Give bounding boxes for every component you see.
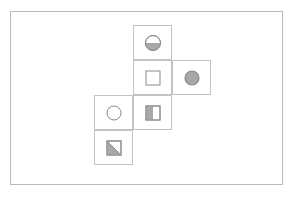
grid-cell-half-filled-square[interactable] [133,95,172,130]
shape-grid [0,0,294,197]
empty-circle-icon [105,104,123,122]
half-filled-circle-icon [144,34,162,52]
grid-cell-half-filled-circle[interactable] [133,25,172,60]
grid-cell-diagonal-split-square[interactable] [94,130,133,165]
half-filled-square-icon [144,104,162,122]
figure-canvas [0,0,294,197]
grid-cell-empty-circle[interactable] [94,95,133,130]
grid-cell-empty-square[interactable] [133,60,172,95]
filled-circle-icon [183,69,201,87]
diagonal-split-square-icon [105,139,123,157]
empty-square-icon [144,69,162,87]
grid-cell-filled-circle[interactable] [172,60,211,95]
